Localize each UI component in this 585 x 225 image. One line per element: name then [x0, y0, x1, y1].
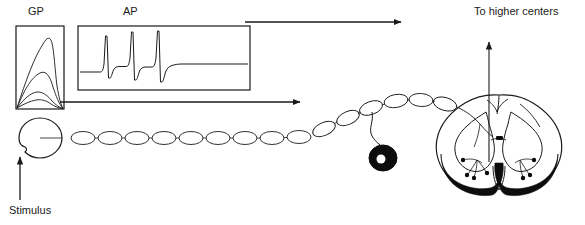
ganglion-cell-stalk [371, 112, 382, 147]
higher-centers-label: To higher centers [474, 6, 558, 17]
myelin-segment [233, 132, 257, 145]
ap-panel [78, 26, 250, 90]
myelin-segment [179, 132, 203, 145]
myelin-segment [152, 132, 176, 145]
ap-panel-border [78, 26, 250, 90]
myelin-segment [334, 107, 361, 129]
gp-label: GP [28, 6, 44, 17]
neuron-soma [528, 173, 532, 177]
myelin-segment [125, 132, 149, 145]
myelin-segment [310, 118, 337, 140]
myelin-segment [358, 98, 385, 118]
neuron-soma [472, 176, 476, 180]
neuron-soma [461, 158, 465, 162]
neuron-soma [521, 176, 525, 180]
stimulus-label: Stimulus [9, 205, 51, 216]
myelin-segment [409, 93, 434, 108]
myelin-segment [71, 132, 95, 145]
myelin-segment [287, 131, 311, 144]
receptor-ending [19, 118, 62, 158]
dorsal-root-ganglion-cell [369, 145, 397, 171]
ap-label: AP [123, 6, 138, 17]
neuron-conduction-diagram: GP AP Stimulus To higher centers [0, 0, 585, 225]
neuron-soma [465, 173, 469, 177]
neuron-soma [485, 171, 489, 175]
myelinated-axon-horizontal [71, 131, 311, 145]
ganglion-nucleus [377, 155, 386, 164]
myelin-segment [260, 132, 284, 145]
gp-panel [16, 26, 64, 109]
myelin-segment [206, 132, 230, 145]
myelin-segment [383, 93, 409, 110]
diagram-canvas [0, 0, 585, 225]
neuron-soma [532, 158, 536, 162]
myelinated-axon-ascending [310, 93, 458, 140]
central-canal [496, 136, 503, 140]
spinal-cord-cross-section [436, 95, 561, 196]
myelin-segment [98, 132, 122, 145]
